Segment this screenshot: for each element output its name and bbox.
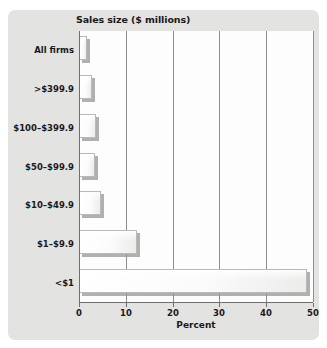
plot-area <box>79 31 313 302</box>
category-label: $10–$49.9 <box>25 200 74 210</box>
category-label: $100–$399.9 <box>13 123 74 133</box>
x-axis-tick <box>313 303 314 307</box>
category-label: >$399.9 <box>34 84 74 94</box>
x-axis-tick <box>173 303 174 307</box>
gridline <box>313 31 314 302</box>
bar <box>79 230 137 254</box>
gridline <box>126 31 127 302</box>
x-axis-tick-label: 30 <box>213 308 225 318</box>
x-axis-tick-label: 10 <box>120 308 132 318</box>
bar <box>79 269 307 293</box>
bar <box>79 153 95 177</box>
category-label: $1–$9.9 <box>37 239 74 249</box>
x-axis-tick-label: 50 <box>307 308 319 318</box>
x-axis-tick-label: 40 <box>260 308 272 318</box>
x-axis-tick <box>219 303 220 307</box>
gridline <box>219 31 220 302</box>
category-label: All firms <box>34 45 74 55</box>
x-axis-tick-label: 0 <box>76 308 82 318</box>
x-axis-tick-label: 20 <box>167 308 179 318</box>
x-axis-tick <box>266 303 267 307</box>
gridline <box>173 31 174 302</box>
gridline <box>266 31 267 302</box>
x-axis-tick <box>79 303 80 307</box>
bar <box>79 75 92 99</box>
category-label: $50–$99.9 <box>25 162 74 172</box>
chart-figure: Sales size ($ millions) All firms>$399.9… <box>0 0 327 348</box>
y-axis-line <box>79 31 80 303</box>
category-label: <$1 <box>55 278 74 288</box>
bar <box>79 36 87 60</box>
chart-title: Sales size ($ millions) <box>76 14 190 25</box>
x-axis-line <box>79 302 313 303</box>
x-axis-tick <box>126 303 127 307</box>
x-axis-title: Percent <box>176 320 215 330</box>
bar <box>79 191 101 215</box>
bar <box>79 114 96 138</box>
